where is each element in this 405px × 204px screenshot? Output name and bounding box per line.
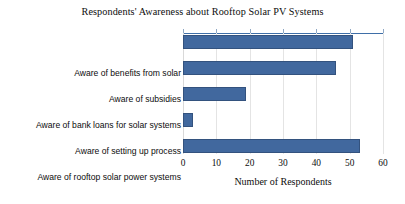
y-axis-category-labels: Aware of benefits from solar Aware of su… [0, 33, 181, 154]
y-axis-label-2: Aware of bank loans for solar systems [3, 120, 181, 130]
x-axis-title: Number of Respondents [183, 176, 383, 187]
x-axis-tick-labels: 0102030405060 [0, 158, 405, 172]
gridline-60 [383, 33, 384, 154]
top-tick-60 [383, 29, 384, 33]
gridline-20 [250, 33, 251, 154]
top-tick-40 [316, 29, 317, 33]
gridline-50 [350, 33, 351, 154]
x-tick-label-30: 30 [268, 158, 298, 168]
gridline-30 [283, 33, 284, 154]
x-tick-label-60: 60 [368, 158, 398, 168]
bar-1 [183, 61, 336, 75]
chart-title: Respondents' Awareness about Rooftop Sol… [0, 6, 405, 17]
bar-4 [183, 139, 360, 153]
top-tick-30 [283, 29, 284, 33]
top-tick-20 [250, 29, 251, 33]
bar-chart: Respondents' Awareness about Rooftop Sol… [0, 0, 405, 204]
bar-2 [183, 87, 246, 101]
x-tick-label-20: 20 [235, 158, 265, 168]
top-tick-10 [216, 29, 217, 33]
x-tick-label-10: 10 [201, 158, 231, 168]
x-tick-label-50: 50 [335, 158, 365, 168]
plot-area [183, 33, 383, 154]
y-axis-label-4: Aware of rooftop solar power systems [3, 172, 181, 182]
bar-3 [183, 113, 193, 127]
gridline-40 [316, 33, 317, 154]
y-axis-label-1: Aware of subsidies [3, 94, 181, 104]
top-tick-50 [350, 29, 351, 33]
x-tick-label-0: 0 [168, 158, 198, 168]
top-tick-0 [183, 29, 184, 33]
y-axis-label-0: Aware of benefits from solar [3, 68, 181, 78]
bar-0 [183, 35, 353, 49]
y-axis-label-3: Aware of setting up process [3, 146, 181, 156]
x-tick-label-40: 40 [301, 158, 331, 168]
